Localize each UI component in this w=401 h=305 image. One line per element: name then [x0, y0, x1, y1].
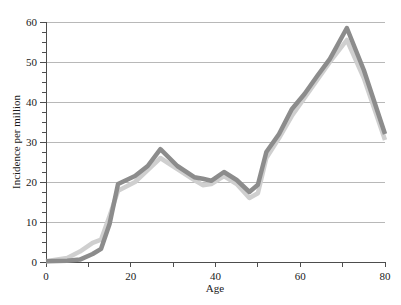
series-line-dark-series [46, 28, 385, 261]
x-ticks [46, 262, 385, 267]
y-tick-label-60: 60 [26, 16, 38, 28]
x-axis-title: Age [206, 282, 224, 294]
data-series-group [46, 28, 385, 261]
x-tick-label-0: 0 [43, 270, 49, 282]
chart-container: 0102030405060 020406080 Age Incidence pe… [0, 0, 401, 305]
y-axis-title: Incidence per million [10, 94, 22, 189]
y-tick-label-0: 0 [32, 256, 38, 268]
y-tick-label-30: 30 [26, 136, 38, 148]
y-tick-label-10: 10 [26, 216, 38, 228]
x-tick-label-80: 80 [380, 270, 392, 282]
x-tick-label-40: 40 [210, 270, 222, 282]
series-line-light-series [46, 40, 385, 261]
x-tick-label-20: 20 [125, 270, 137, 282]
y-major-ticks [40, 22, 46, 262]
y-tick-labels: 0102030405060 [26, 16, 38, 268]
x-tick-labels: 020406080 [43, 270, 391, 282]
y-tick-label-20: 20 [26, 176, 38, 188]
line-chart: 0102030405060 020406080 Age Incidence pe… [0, 0, 401, 305]
y-tick-label-40: 40 [26, 96, 38, 108]
y-tick-label-50: 50 [26, 56, 38, 68]
x-tick-label-60: 60 [295, 270, 307, 282]
